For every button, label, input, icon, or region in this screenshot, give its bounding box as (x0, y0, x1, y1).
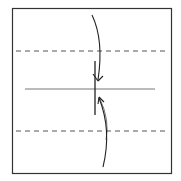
paper-square (13, 9, 172, 174)
origami-diagram (0, 0, 181, 181)
